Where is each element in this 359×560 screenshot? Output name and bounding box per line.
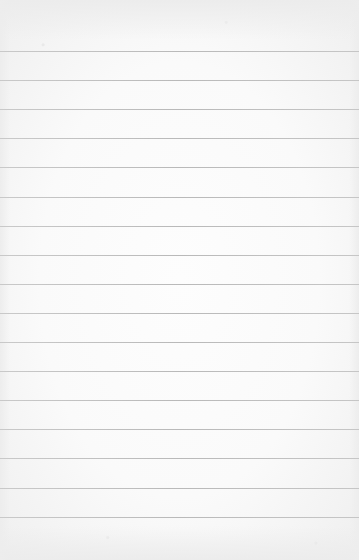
ruled-line bbox=[0, 51, 359, 52]
ruled-line bbox=[0, 109, 359, 110]
ruled-line bbox=[0, 313, 359, 314]
ruled-line bbox=[0, 400, 359, 401]
ruled-line bbox=[0, 458, 359, 459]
paper-edge-shading-bottom bbox=[0, 526, 359, 560]
ruled-line bbox=[0, 138, 359, 139]
ruled-line bbox=[0, 197, 359, 198]
ruled-line bbox=[0, 429, 359, 430]
paper-texture bbox=[0, 0, 359, 560]
paper-edge-shading-left bbox=[0, 0, 10, 560]
paper-edge-shading-top bbox=[0, 0, 359, 40]
lined-paper-sheet bbox=[0, 0, 359, 560]
ruled-line bbox=[0, 255, 359, 256]
ruled-line bbox=[0, 284, 359, 285]
paper-edge-shading-right bbox=[349, 0, 359, 560]
ruled-line bbox=[0, 371, 359, 372]
ruled-line bbox=[0, 342, 359, 343]
ruled-line bbox=[0, 80, 359, 81]
ruled-line bbox=[0, 167, 359, 168]
ruled-line bbox=[0, 226, 359, 227]
ruled-line bbox=[0, 488, 359, 489]
ruled-line bbox=[0, 517, 359, 518]
